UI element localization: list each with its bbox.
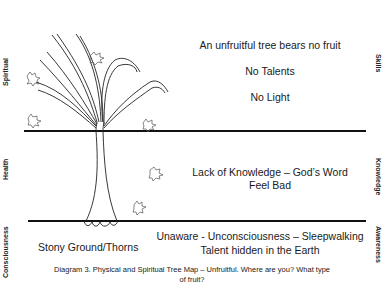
- upper-zone-line2: No Talents: [170, 65, 370, 77]
- leaf-icon: [90, 52, 104, 65]
- leaf-icon: [28, 114, 41, 128]
- upper-zone-line3: No Light: [170, 91, 370, 103]
- lower-zone-line2: Talent hidden in the Earth: [150, 244, 370, 256]
- lower-zone-line1: Unaware - Unconsciousness – Sleepwalking: [150, 230, 370, 242]
- caption-line1: Diagram 3. Physical and Spiritual Tree M…: [0, 265, 384, 274]
- leaf-icon: [149, 167, 163, 181]
- label-skills: Skills: [375, 54, 382, 72]
- leaf-icon: [27, 72, 40, 86]
- middle-zone-line1: Lack of Knowledge – God’s Word: [170, 166, 370, 178]
- upper-zone-line1: An unfruitful tree bears no fruit: [170, 39, 370, 51]
- label-spiritual: Spiritual: [2, 58, 9, 86]
- label-knowledge: Knowledge: [375, 158, 382, 195]
- caption-line2: of fruit?: [0, 275, 384, 284]
- leaf-icon: [133, 201, 146, 215]
- label-awareness: Awareness: [375, 226, 382, 263]
- middle-zone-line2: Feel Bad: [170, 179, 370, 191]
- label-health: Health: [2, 159, 9, 180]
- lower-zone-left-text: Stony Ground/Thorns: [38, 241, 138, 253]
